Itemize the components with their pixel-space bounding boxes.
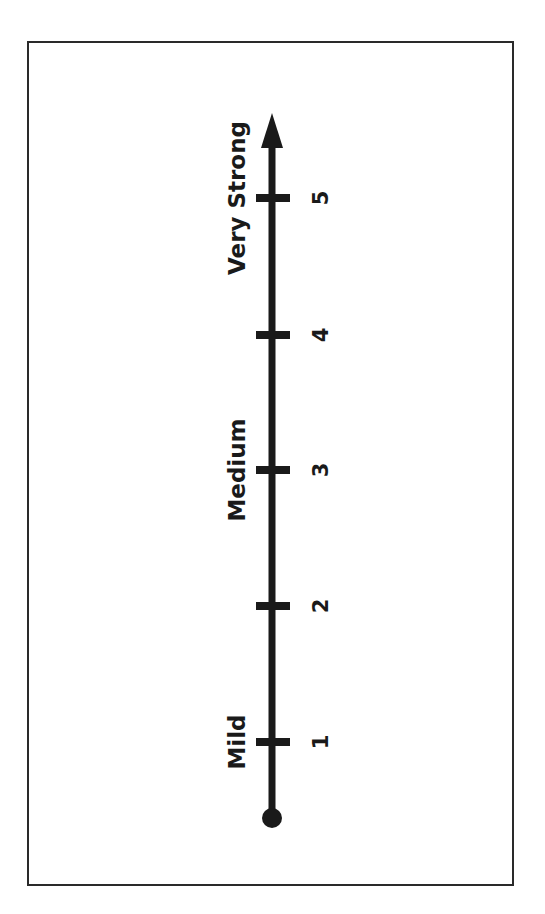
scale-label-mild: Mild	[224, 714, 250, 769]
arrow-head-icon	[261, 113, 283, 148]
scale-axis	[0, 0, 545, 914]
tick-number-4: 4	[309, 328, 333, 343]
scale-label-very-strong: Very Strong	[224, 121, 250, 275]
tick-number-1: 1	[309, 735, 333, 750]
origin-dot-icon	[262, 808, 282, 828]
tick-number-3: 3	[309, 463, 333, 478]
tick-number-2: 2	[309, 599, 333, 614]
scale-label-medium: Medium	[224, 418, 250, 521]
tick-number-5: 5	[309, 191, 333, 206]
